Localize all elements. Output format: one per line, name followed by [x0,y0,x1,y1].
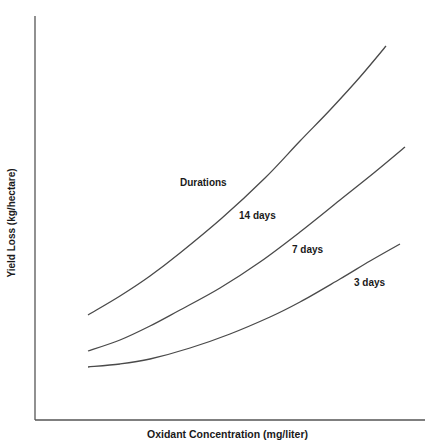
label-7-days: 7 days [292,244,323,255]
label-3-days: 3 days [354,277,385,288]
curve-3-days [88,244,400,367]
curve-14-days [88,46,386,315]
legend-title-durations: Durations [180,177,227,188]
curve-7-days [88,147,405,351]
x-axis-label: Oxidant Concentration (mg/liter) [0,428,433,440]
y-axis-label: Yield Loss (kg/hectare) [6,168,17,277]
chart-canvas [0,0,433,442]
label-14-days: 14 days [239,210,276,221]
